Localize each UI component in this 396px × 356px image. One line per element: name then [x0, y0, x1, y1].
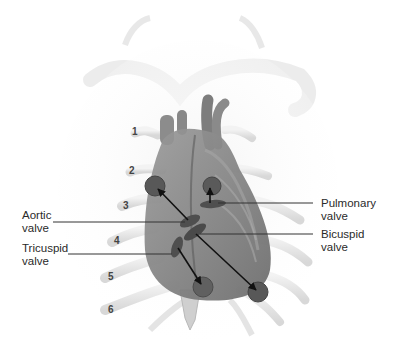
- rib-number-6: 6: [108, 304, 114, 315]
- tricuspid-auscultation-site: [193, 277, 213, 297]
- anatomy-illustration: [0, 0, 396, 356]
- pulmonary-valve-label: Pulmonary valve: [321, 197, 376, 222]
- rib-number-2: 2: [129, 165, 135, 176]
- aortic-valve-label: Aortic valve: [22, 209, 51, 234]
- rib-number-3: 3: [123, 200, 129, 211]
- tricuspid-valve-label: Tricuspid valve: [22, 242, 68, 267]
- pulmonic-auscultation-site: [203, 177, 221, 195]
- bicuspid-valve-label: Bicuspid valve: [321, 228, 364, 253]
- heart-valve-diagram: 1 2 3 4 5 6 Aortic valve Tricuspid valve…: [0, 0, 396, 356]
- rib-number-4: 4: [114, 235, 120, 246]
- rib-number-5: 5: [108, 271, 114, 282]
- rib-number-1: 1: [132, 126, 138, 137]
